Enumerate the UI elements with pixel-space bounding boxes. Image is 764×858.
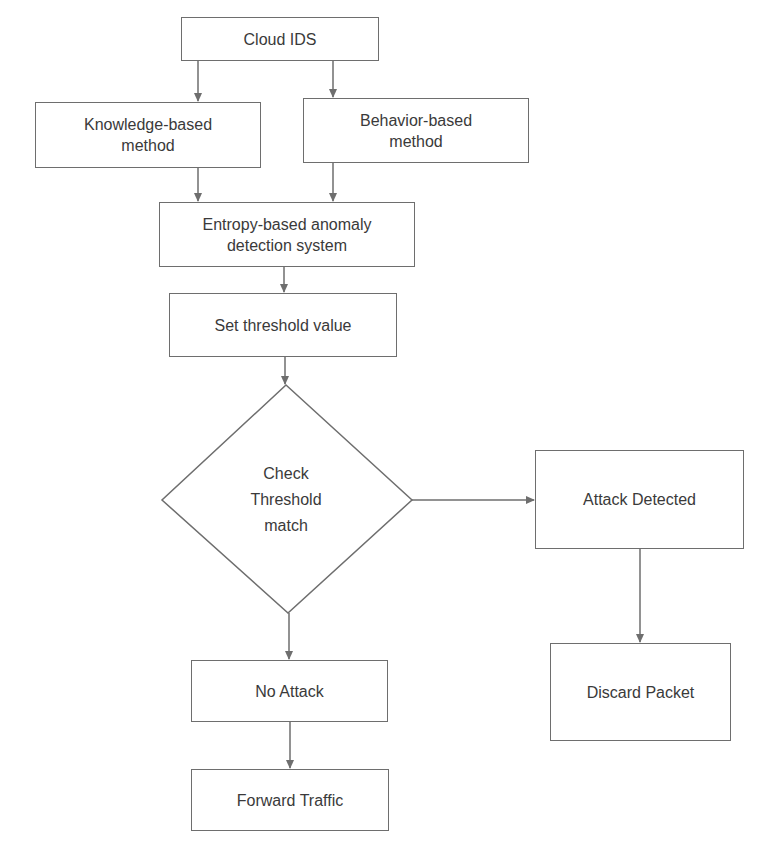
node-label-line2: method xyxy=(121,135,174,156)
node-label-line1: Knowledge-based xyxy=(84,114,212,135)
node-label: No Attack xyxy=(255,681,323,702)
node-label: Attack Detected xyxy=(583,489,696,510)
node-set-threshold-value: Set threshold value xyxy=(169,293,397,357)
node-label-line2: method xyxy=(389,131,442,152)
node-label: Cloud IDS xyxy=(244,29,317,50)
node-label-line3: match xyxy=(216,513,356,539)
node-label-line1: Behavior-based xyxy=(360,110,472,131)
node-label: Set threshold value xyxy=(215,315,352,336)
node-check-threshold-match: Check Threshold match xyxy=(216,461,356,539)
node-label-line1: Check xyxy=(216,461,356,487)
node-entropy-detection-system: Entropy-based anomaly detection system xyxy=(159,202,415,267)
node-attack-detected: Attack Detected xyxy=(535,450,744,549)
node-label-line1: Entropy-based anomaly xyxy=(203,214,372,235)
node-no-attack: No Attack xyxy=(191,660,388,722)
node-label: Forward Traffic xyxy=(237,790,343,811)
node-label-line2: detection system xyxy=(227,235,347,256)
node-label-line2: Threshold xyxy=(216,487,356,513)
node-knowledge-based-method: Knowledge-based method xyxy=(35,102,261,168)
node-discard-packet: Discard Packet xyxy=(550,643,731,741)
node-behavior-based-method: Behavior-based method xyxy=(303,98,529,163)
node-forward-traffic: Forward Traffic xyxy=(191,769,389,831)
node-cloud-ids: Cloud IDS xyxy=(181,17,379,61)
node-label: Discard Packet xyxy=(587,682,695,703)
